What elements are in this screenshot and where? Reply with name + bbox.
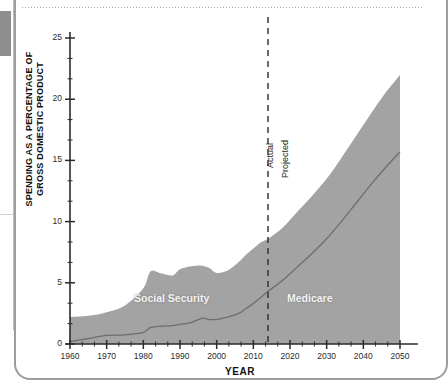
x-tick-label: 2020 bbox=[273, 351, 307, 361]
y-axis-title-line2: GROSS DOMESTIC PRODUCT bbox=[35, 62, 45, 196]
divider-projected-label: Projected bbox=[280, 140, 290, 178]
divider-actual-label: Actual bbox=[265, 143, 275, 168]
y-axis-title: SPENDING AS A PERCENTAGE OF GROSS DOMEST… bbox=[24, 24, 46, 234]
y-tick-label: 25 bbox=[40, 32, 62, 42]
x-tick-label: 2030 bbox=[310, 351, 344, 361]
y-tick-label: 5 bbox=[40, 277, 62, 287]
x-axis-title: YEAR bbox=[150, 366, 330, 377]
y-tick-label: 20 bbox=[40, 93, 62, 103]
x-tick-label: 1960 bbox=[53, 351, 87, 361]
y-tick-label: 0 bbox=[40, 338, 62, 348]
x-tick-label: 1970 bbox=[90, 351, 124, 361]
x-tick-label: 2050 bbox=[383, 351, 417, 361]
x-tick-label: 1980 bbox=[126, 351, 160, 361]
x-tick-label: 2000 bbox=[200, 351, 234, 361]
y-axis-title-line1: SPENDING AS A PERCENTAGE OF bbox=[24, 52, 34, 207]
x-tick-label: 2040 bbox=[346, 351, 380, 361]
series-label-social-security: Social Security bbox=[134, 292, 209, 304]
x-tick-label: 1990 bbox=[163, 351, 197, 361]
y-tick-label: 15 bbox=[40, 154, 62, 164]
y-tick-label: 10 bbox=[40, 216, 62, 226]
series-label-medicare: Medicare bbox=[287, 292, 333, 304]
x-tick-label: 2010 bbox=[236, 351, 270, 361]
